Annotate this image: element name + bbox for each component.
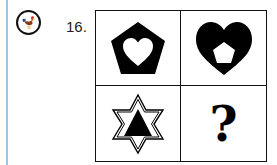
- star-with-triangle-icon: [107, 93, 169, 155]
- cell-pentagon-heart: [96, 11, 181, 86]
- puzzle-grid: ?: [95, 10, 267, 162]
- heart-with-pentagon-icon: [193, 20, 255, 76]
- rooster-badge: [16, 10, 41, 35]
- pentagon-with-heart-icon: [109, 20, 167, 76]
- left-accent-line: [6, 0, 8, 165]
- cell-star-triangle: [96, 86, 181, 161]
- question-mark: ?: [209, 100, 237, 148]
- cell-unknown-answer: ?: [181, 86, 266, 161]
- cell-heart-pentagon: [181, 11, 266, 86]
- question-number: 16.: [66, 19, 87, 34]
- rooster-icon: [20, 14, 38, 32]
